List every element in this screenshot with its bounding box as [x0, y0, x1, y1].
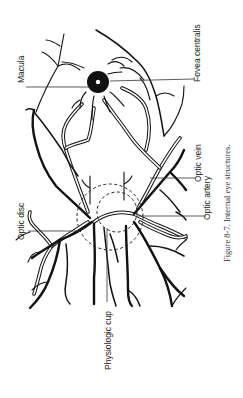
- label-optic-disc: Optic disc: [16, 202, 26, 240]
- label-fovea-centralis: Fovea centralis: [192, 24, 202, 82]
- internal-eye-structures-diagram: Macula Fovea centralis Optic vein Optic …: [0, 0, 243, 398]
- label-optic-artery: Optic artery: [202, 175, 212, 220]
- macula: [87, 71, 109, 93]
- label-macula: Macula: [16, 55, 26, 83]
- figure-caption: Figure 8-7. Internal eye structures.: [222, 144, 232, 262]
- label-physiologic-cup: Physiologic cup: [103, 311, 113, 370]
- fovea-centralis: [96, 80, 100, 84]
- optic-disc: [77, 184, 143, 250]
